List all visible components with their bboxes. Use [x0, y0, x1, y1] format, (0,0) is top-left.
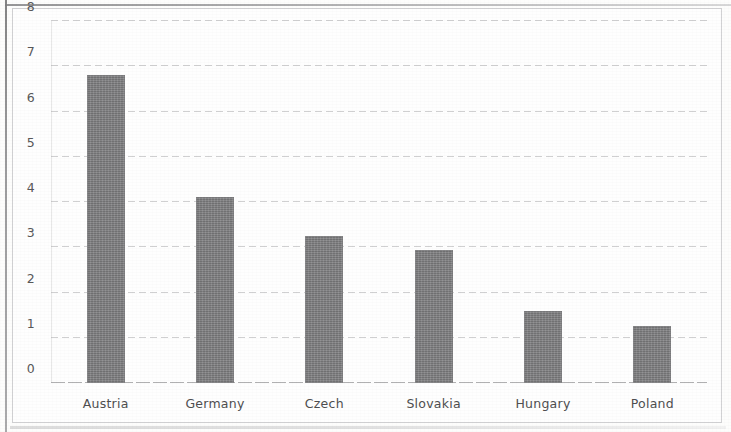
gridline-7 — [51, 65, 707, 66]
gridline-3 — [51, 246, 707, 247]
gridline-6 — [51, 111, 707, 112]
bar-czech — [305, 236, 343, 383]
x-label-germany: Germany — [185, 396, 244, 411]
x-label-hungary: Hungary — [515, 396, 570, 411]
y-tick-label-5: 5 — [27, 134, 35, 149]
y-tick-label-3: 3 — [27, 225, 35, 240]
y-axis-line — [51, 21, 52, 383]
plot-area: 012345678 AustriaGermanyCzechSlovakiaHun… — [51, 21, 707, 383]
bar-austria — [87, 75, 125, 383]
y-tick-label-4: 4 — [27, 180, 35, 195]
y-tick-label-8: 8 — [27, 0, 35, 14]
x-label-czech: Czech — [305, 396, 344, 411]
page-edge-rule-bottom — [10, 426, 726, 429]
x-label-austria: Austria — [83, 396, 129, 411]
x-label-slovakia: Slovakia — [406, 396, 460, 411]
y-tick-label-7: 7 — [27, 44, 35, 59]
gridline-1 — [51, 337, 707, 338]
gridline-4 — [51, 201, 707, 202]
y-tick-label-1: 1 — [27, 315, 35, 330]
chart-frame: 012345678 AustriaGermanyCzechSlovakiaHun… — [12, 8, 722, 423]
y-tick-label-6: 6 — [27, 89, 35, 104]
bar-germany — [196, 197, 234, 383]
bar-poland — [633, 326, 671, 383]
gridline-2 — [51, 292, 707, 293]
scanned-chart-page: 012345678 AustriaGermanyCzechSlovakiaHun… — [0, 0, 731, 432]
gridline-8 — [51, 20, 707, 21]
gridline-5 — [51, 156, 707, 157]
page-edge-rule-top — [5, 4, 731, 6]
y-tick-label-2: 2 — [27, 270, 35, 285]
x-label-poland: Poland — [631, 396, 674, 411]
bar-hungary — [524, 311, 562, 383]
y-tick-label-0: 0 — [27, 361, 35, 376]
bar-slovakia — [415, 250, 453, 383]
gridline-0 — [51, 382, 707, 383]
page-edge-rule-left — [5, 0, 7, 432]
